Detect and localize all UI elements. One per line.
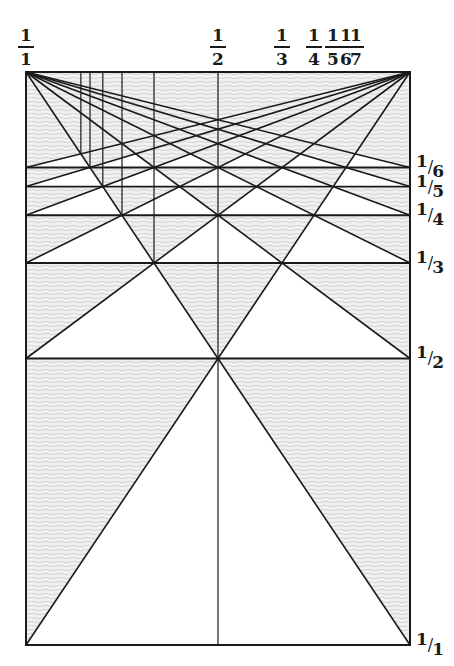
row-label-1-5: 1/5 [416,175,444,195]
label-numerator: 1 [416,151,428,171]
label-denominator: 1 [16,51,36,68]
label-denominator: 4 [304,51,324,68]
fraction-bar [210,46,226,48]
fraction-bar [18,46,34,48]
label-numerator: 1 [346,27,366,44]
label-denominator: 2 [208,51,228,68]
fraction-bar [274,46,290,48]
label-numerator: 1 [16,27,36,44]
label-denominator: 1 [432,639,444,659]
column-label-1-1: 11 [16,27,36,68]
column-label-1-4: 14 [304,27,324,68]
label-numerator: 1 [272,27,292,44]
label-numerator: 1 [416,171,428,191]
label-numerator: 1 [416,629,428,649]
row-label-1-1: 1/1 [416,633,444,653]
row-label-1-3: 1/3 [416,251,444,271]
label-numerator: 1 [416,342,428,362]
label-numerator: 1 [416,199,428,219]
row-label-1-2: 1/2 [416,346,444,366]
label-numerator: 1 [208,27,228,44]
label-denominator: 3 [272,51,292,68]
harmonic-division-diagram [0,0,454,666]
label-denominator: 2 [432,352,444,372]
label-denominator: 5 [432,181,444,201]
label-numerator: 1 [304,27,324,44]
label-denominator: 4 [432,209,444,229]
column-label-1-7: 17 [346,27,366,68]
label-numerator: 1 [416,247,428,267]
column-label-1-2: 12 [208,27,228,68]
fraction-bar [306,46,322,48]
construction-lines [26,72,410,645]
label-denominator: 3 [432,257,444,277]
label-denominator: 7 [346,51,366,68]
column-label-1-3: 13 [272,27,292,68]
row-label-1-4: 1/4 [416,203,444,223]
fraction-bar [348,46,364,48]
